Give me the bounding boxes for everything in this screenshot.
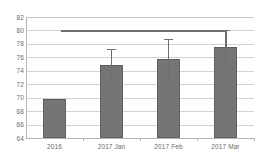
y-tick-label: 72 [2, 81, 24, 88]
y-axis-line [26, 17, 27, 139]
x-tick-mark [254, 138, 255, 141]
y-tick-label: 74 [2, 67, 24, 74]
x-axis-tick-labels: 20162017 Jan2017 Feb2017 Mar [0, 142, 260, 156]
x-tick-label: 2017 Mar [196, 142, 256, 151]
x-tick-label: 2017 Feb [139, 142, 199, 151]
gridline-82 [26, 17, 254, 18]
error-bar-cap-bottom [164, 80, 173, 81]
y-tick-label: 66 [2, 121, 24, 128]
error-bar [168, 39, 169, 79]
error-bar [111, 49, 112, 83]
y-tick-label: 68 [2, 108, 24, 115]
y-tick-label: 76 [2, 54, 24, 61]
y-tick-label: 64 [2, 135, 24, 142]
y-tick-label: 82 [2, 14, 24, 21]
x-tick-mark [83, 138, 84, 141]
x-tick-mark [197, 138, 198, 141]
error-bar-cap-bottom [221, 63, 230, 64]
gridline-78 [26, 44, 254, 45]
x-tick-mark [140, 138, 141, 141]
x-tick-label: 2017 Jan [82, 142, 142, 151]
y-axis-tick-labels: 82807876747270686664 [0, 0, 24, 159]
y-tick-label: 70 [2, 94, 24, 101]
significance-drop-line [226, 30, 227, 46]
error-bar-cap-top [107, 49, 116, 50]
bar [43, 99, 66, 138]
error-bar-cap-top [164, 39, 173, 40]
bar-chart: 82807876747270686664 20162017 Jan2017 Fe… [0, 0, 260, 159]
significance-line [61, 30, 226, 31]
x-tick-label: 2016 [25, 142, 85, 151]
y-tick-label: 80 [2, 27, 24, 34]
plot-area [26, 17, 254, 138]
y-tick-label: 78 [2, 40, 24, 47]
error-bar-cap-bottom [107, 82, 116, 83]
